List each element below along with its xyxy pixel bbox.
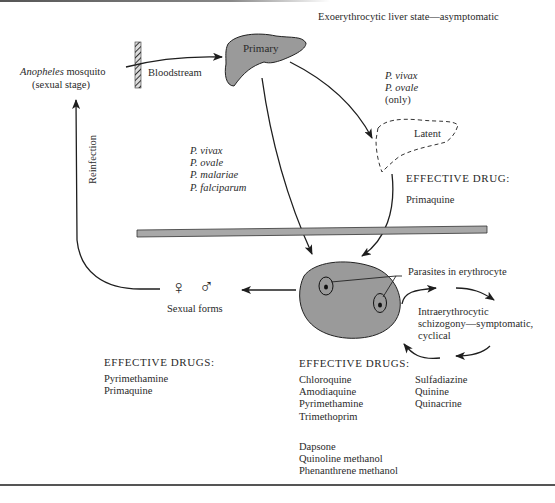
cycle-arrow-top-right	[456, 288, 494, 300]
mosquito-genus: Anopheles	[20, 66, 64, 77]
bloodstream-label: Bloodstream	[148, 67, 202, 79]
drug-item: Phenanthrene methanol	[299, 465, 398, 477]
blood-drugs-group-2: Dapsone Quinoline methanol Phenanthrene …	[299, 441, 398, 478]
liver-drug-item: Primaquine	[406, 194, 454, 206]
cycle-label-line: schizogony—symptomatic,	[418, 318, 533, 330]
primary-liver-label: Primary	[243, 42, 278, 54]
species-item: P. ovale	[385, 82, 418, 94]
cycle-arrow-bottom-right	[456, 346, 490, 356]
cycle-label-line: Intraerythrocytic	[418, 306, 533, 318]
mosquito-label: Anopheles mosquito	[20, 66, 105, 78]
drug-item: Dapsone	[299, 441, 398, 453]
blood-drugs-group-1: Chloroquine Amodiaquine Pyrimethamine Tr…	[299, 374, 363, 423]
blood-drugs-group-3: Sulfadiazine Quinine Quinacrine	[415, 374, 467, 411]
latent-species-list: P. vivax P. ovale (only)	[385, 70, 418, 107]
species-item: P. ovale	[190, 157, 246, 169]
primary-to-erythrocyte-arrow	[262, 78, 312, 254]
species-item: P. malariae	[190, 169, 246, 181]
mosquito-stage: (sexual stage)	[32, 79, 90, 91]
female-symbol: ♀	[171, 276, 186, 298]
drug-item: Sulfadiazine	[415, 374, 467, 386]
species-item: P. vivax	[385, 70, 418, 82]
liver-blood-barrier	[137, 226, 487, 237]
reinfection-arrow	[76, 100, 160, 289]
drug-item: Pyrimethamine	[299, 398, 363, 410]
drug-item: Amodiaquine	[299, 386, 363, 398]
species-item: P. vivax	[190, 145, 246, 157]
blood-drugs-heading: EFFECTIVE DRUGS:	[299, 357, 410, 369]
sexual-drugs-list: Pyrimethamine Primaquine	[104, 373, 168, 397]
primary-to-latent-arrow	[290, 62, 372, 138]
sexual-drugs-heading: EFFECTIVE DRUGS:	[104, 356, 215, 368]
drug-item: Trimethoprim	[299, 411, 363, 423]
title: Exoerythrocytic liver state—asymptomatic	[318, 11, 499, 23]
drug-item: Chloroquine	[299, 374, 363, 386]
drug-item: Quinacrine	[415, 398, 467, 410]
drug-item: Pyrimethamine	[104, 373, 168, 385]
liver-drug-heading: EFFECTIVE DRUG:	[406, 172, 510, 184]
reinfection-label: Reinfection	[87, 135, 99, 184]
latent-to-erythrocyte-arrow	[362, 174, 393, 256]
erythrocyte-label: Parasites in erythrocyte	[408, 266, 507, 278]
cycle-arrow-top-left	[402, 288, 436, 304]
cycle-label: Intraerythrocytic schizogony—symptomatic…	[418, 306, 533, 343]
drug-item: Quinoline methanol	[299, 453, 398, 465]
species-note: (only)	[385, 94, 418, 106]
all-species-list: P. vivax P. ovale P. malariae P. falcipa…	[190, 145, 246, 194]
drug-item: Primaquine	[104, 385, 168, 397]
drug-item: Quinine	[415, 386, 467, 398]
mosquito-word: mosquito	[64, 66, 106, 77]
latent-liver-label: Latent	[414, 128, 441, 140]
cycle-label-line: cyclical	[418, 330, 533, 342]
male-symbol: ♂	[199, 275, 214, 297]
species-item: P. falciparum	[190, 182, 246, 194]
sexual-forms-label: Sexual forms	[167, 303, 223, 315]
